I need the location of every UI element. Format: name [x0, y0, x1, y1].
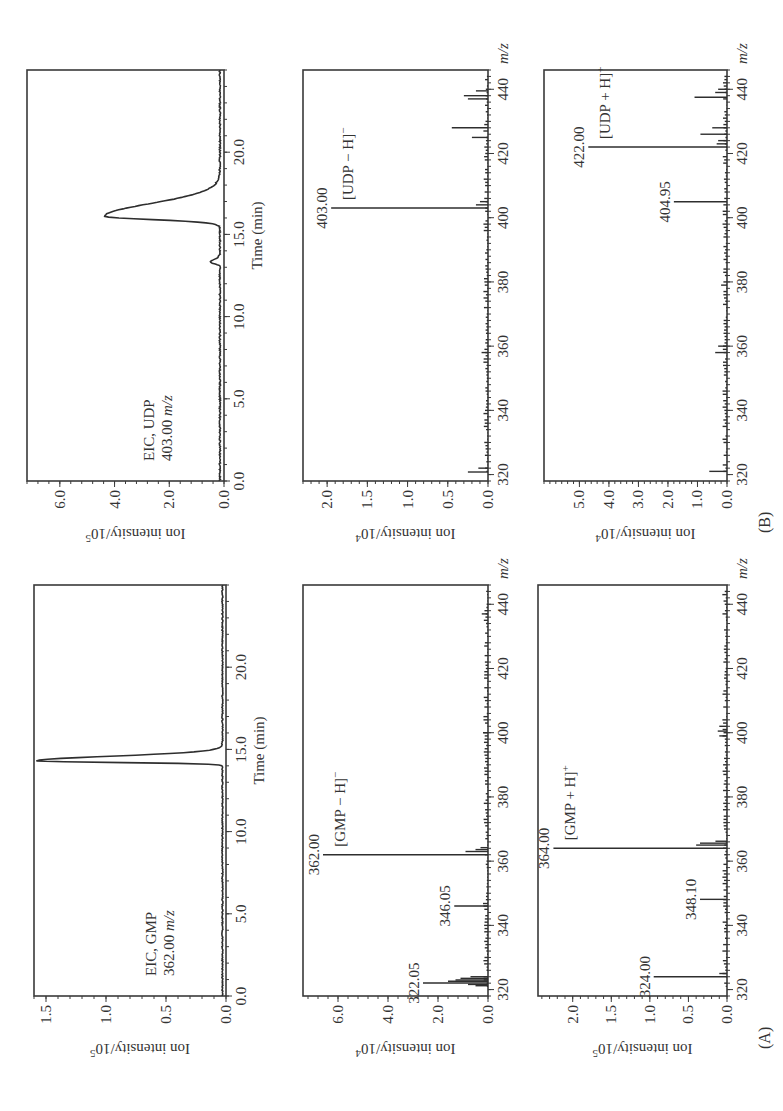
eic-mz: 362.00 m/z — [161, 910, 177, 976]
panel-label-b: (B) — [756, 512, 774, 533]
y-tick-label: 2.0 — [565, 1005, 581, 1024]
plot-frame — [34, 585, 226, 996]
ion-annotation: [UDP − H]− — [337, 128, 356, 200]
peak-label: 362.00 — [306, 834, 322, 875]
x-tick-label: 400 — [495, 721, 511, 744]
plot-B-ms-pos: 3203403603804004204400.01.02.03.04.05.0I… — [544, 43, 750, 545]
x-tick-label: 420 — [495, 657, 511, 680]
x-tick-label: 15.0 — [231, 221, 247, 247]
y-axis-label: Ion intensity/104 — [355, 526, 456, 545]
peak-label: 346.05 — [437, 885, 453, 926]
peak-label: 364.00 — [536, 828, 552, 869]
y-tick-label: 1.5 — [359, 490, 375, 509]
x-tick-label: 360 — [495, 335, 511, 358]
x-axis-label: m/z — [495, 43, 511, 64]
eic-mz: 403.00 m/z — [159, 395, 175, 461]
x-axis-label: m/z — [495, 558, 511, 579]
y-tick-label: 0.5 — [440, 490, 456, 509]
x-tick-label: 440 — [734, 593, 750, 616]
x-tick-label: 10.0 — [233, 818, 249, 844]
x-tick-label: 360 — [734, 850, 750, 873]
x-tick-label: 320 — [495, 463, 511, 486]
x-tick-label: 10.0 — [231, 303, 247, 329]
y-axis-label: Ion intensity/104 — [355, 1041, 456, 1060]
y-axis-label: Ion intensity/104 — [595, 526, 696, 545]
x-axis-label: Time (min) — [249, 201, 266, 269]
plot-A-ms-pos: 3203403603804004204400.00.51.01.52.0Ion … — [536, 558, 750, 1060]
x-tick-label: 440 — [495, 78, 511, 101]
y-tick-label: 6.0 — [330, 1005, 346, 1024]
plot-B-eic: 0.05.010.015.020.00.02.04.06.0Ion intens… — [27, 70, 266, 545]
x-axis-label: m/z — [734, 558, 750, 579]
peak-label: 422.00 — [571, 126, 587, 167]
plot-B-ms-neg: 3203403603804004204400.00.51.01.52.0Ion … — [303, 43, 511, 545]
y-tick-label: 0.5 — [680, 1005, 696, 1024]
y-tick-label: 4.0 — [601, 490, 617, 509]
y-tick-label: 4.0 — [380, 1005, 396, 1024]
y-tick-label: 1.0 — [400, 490, 416, 509]
chromatogram-trace — [36, 585, 223, 996]
x-tick-label: 20.0 — [233, 654, 249, 680]
x-tick-label: 320 — [495, 978, 511, 1001]
eic-title: EIC, UDP — [141, 399, 157, 461]
y-tick-label: 6.0 — [52, 490, 68, 509]
x-tick-label: 440 — [734, 78, 750, 101]
y-axis-label: Ion intensity/105 — [592, 1041, 693, 1060]
x-tick-label: 0.0 — [233, 987, 249, 1006]
y-tick-label: 3.0 — [630, 490, 646, 509]
y-tick-label: 5.0 — [571, 490, 587, 509]
x-tick-label: 340 — [734, 399, 750, 422]
panel-label-a: (A) — [756, 1027, 774, 1049]
x-tick-label: 340 — [495, 399, 511, 422]
figure-canvas: 0.05.010.015.020.00.00.51.01.5Ion intens… — [0, 0, 783, 1111]
y-tick-label: 2.0 — [319, 490, 335, 509]
x-tick-label: 380 — [495, 271, 511, 294]
x-axis-label: m/z — [734, 43, 750, 64]
peak-label: 403.00 — [314, 187, 330, 228]
y-tick-label: 1.0 — [689, 490, 705, 509]
y-tick-label: 2.0 — [161, 490, 177, 509]
y-axis-label: Ion intensity/105 — [89, 1041, 190, 1060]
peak-label: 348.10 — [683, 879, 699, 920]
x-axis-label: Time (min) — [251, 716, 268, 784]
y-tick-label: 0.0 — [218, 1005, 234, 1024]
x-tick-label: 420 — [734, 657, 750, 680]
y-tick-label: 1.0 — [642, 1005, 658, 1024]
x-tick-label: 0.0 — [231, 472, 247, 491]
x-tick-label: 420 — [734, 142, 750, 165]
x-tick-label: 320 — [734, 463, 750, 486]
y-tick-label: 0.0 — [480, 490, 496, 509]
plot-frame — [27, 70, 224, 481]
eic-title: EIC, GMP — [143, 912, 159, 976]
x-tick-label: 20.0 — [231, 139, 247, 165]
y-tick-label: 2.0 — [660, 490, 676, 509]
y-tick-label: 1.5 — [603, 1005, 619, 1024]
x-tick-label: 380 — [495, 786, 511, 809]
figure-rotated: 0.05.010.015.020.00.00.51.01.5Ion intens… — [0, 0, 783, 1111]
x-tick-label: 380 — [734, 271, 750, 294]
ion-annotation: [GMP + H]+ — [559, 765, 578, 840]
peak-label: 322.05 — [406, 962, 422, 1003]
x-tick-label: 420 — [495, 142, 511, 165]
plot-A-eic: 0.05.010.015.020.00.00.51.01.5Ion intens… — [34, 585, 268, 1060]
y-tick-label: 0.0 — [216, 490, 232, 509]
plot-frame — [303, 70, 488, 481]
ion-annotation: [GMP − H]− — [329, 772, 348, 847]
y-axis-label: Ion intensity/105 — [85, 526, 186, 545]
x-tick-label: 5.0 — [231, 389, 247, 408]
peak-label: 324.00 — [637, 956, 653, 997]
x-tick-label: 5.0 — [233, 904, 249, 923]
plot-A-ms-neg: 3203403603804004204400.02.04.06.0Ion int… — [303, 558, 511, 1060]
y-tick-label: 2.0 — [430, 1005, 446, 1024]
y-tick-label: 1.0 — [98, 1005, 114, 1024]
y-tick-label: 0.0 — [719, 1005, 735, 1024]
ion-annotation: [UDP + H]+ — [594, 67, 613, 139]
x-tick-label: 340 — [734, 914, 750, 937]
peak-label: 404.95 — [657, 181, 673, 222]
x-tick-label: 340 — [495, 914, 511, 937]
y-tick-label: 0.5 — [158, 1005, 174, 1024]
x-tick-label: 400 — [734, 206, 750, 229]
y-tick-label: 0.0 — [480, 1005, 496, 1024]
x-tick-label: 400 — [495, 206, 511, 229]
x-tick-label: 360 — [734, 335, 750, 358]
